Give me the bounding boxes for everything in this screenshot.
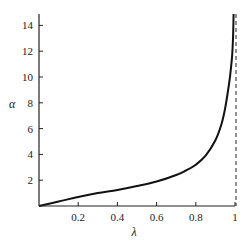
y-tick-label: 12	[22, 45, 33, 57]
x-tick-label: 0.4	[111, 211, 125, 223]
plot-area	[39, 14, 236, 206]
y-tick-label: 8	[28, 97, 34, 109]
series-line	[39, 14, 234, 206]
axes: 24681012140.20.40.60.81	[22, 14, 238, 223]
y-tick-label: 6	[28, 123, 34, 135]
x-axis-label: λ	[130, 225, 136, 239]
y-tick-label: 4	[28, 148, 34, 160]
y-tick-label: 14	[22, 19, 34, 31]
y-tick-label: 2	[28, 174, 34, 186]
y-tick-label: 10	[22, 71, 34, 83]
x-tick-label: 0.6	[150, 211, 164, 223]
x-tick-label: 1	[232, 211, 238, 223]
chart: 24681012140.20.40.60.81 α λ	[0, 0, 249, 245]
x-tick-label: 0.8	[189, 211, 203, 223]
x-tick-label: 0.2	[71, 211, 85, 223]
y-axis-label: α	[9, 97, 16, 111]
